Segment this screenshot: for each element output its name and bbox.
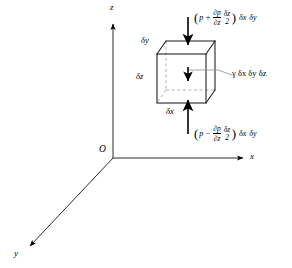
fluid-element-cube (157, 41, 215, 103)
top-force-expression: ( p + ∂p ∂z δz 2 ) δx δy (194, 9, 257, 27)
bottom-delta-fraction: δz 2 (222, 126, 231, 143)
bottom-force-expression: ( p − ∂p ∂z δz 2 ) δx δy (194, 125, 257, 143)
bottom-operator: − (204, 130, 212, 138)
top-operator: + (204, 14, 212, 22)
delta-y-label: δy (141, 36, 149, 45)
bottom-force-label: ( p − ∂p ∂z δz 2 ) δx δy (194, 125, 257, 143)
z-axis-label: z (110, 3, 114, 12)
bottom-frac1-denominator: ∂z (213, 133, 222, 142)
bottom-area-term-1: δx (236, 130, 246, 138)
top-frac1-denominator: ∂z (213, 17, 222, 26)
top-delta-fraction: δz 2 (222, 10, 231, 27)
bottom-frac2-denominator: 2 (224, 134, 230, 142)
weight-leader-line (189, 70, 232, 75)
delta-z-label: δz (136, 72, 143, 81)
weight-force-label: γ δx δy δz (232, 69, 266, 78)
x-axis-label: x (250, 152, 254, 161)
y-axis-line (30, 158, 113, 246)
bottom-frac1-numerator: ∂p (212, 125, 221, 133)
top-frac1-numerator: ∂p (212, 9, 221, 17)
top-force-label: ( p + ∂p ∂z δz 2 ) δx δy (194, 9, 257, 27)
y-axis-label: y (14, 249, 18, 258)
origin-label: O (99, 145, 106, 155)
top-partial-fraction: ∂p ∂z (212, 9, 222, 27)
top-area-term-1: δx (236, 14, 246, 22)
delta-x-label: δx (166, 107, 174, 116)
top-frac2-denominator: 2 (224, 18, 230, 26)
pressure-element-figure: z x y O δy δz δx ( p + ∂p ∂z δz 2 ) δx δ… (0, 0, 292, 268)
bottom-area-term-2: δy (246, 130, 256, 138)
bottom-partial-fraction: ∂p ∂z (212, 125, 222, 143)
top-area-term-2: δy (246, 14, 256, 22)
